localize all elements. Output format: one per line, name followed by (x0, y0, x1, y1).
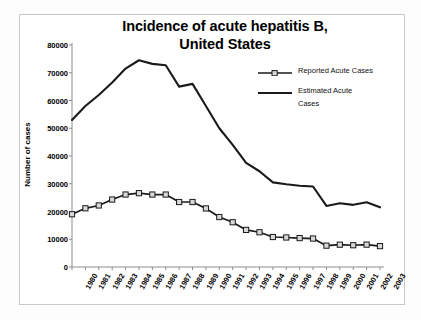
series-marker (203, 206, 208, 211)
chart-legend: Reported Acute Cases Estimated Acute Cas… (258, 68, 398, 88)
series-marker (257, 230, 262, 235)
legend-label-reported: Reported Acute Cases (298, 64, 398, 77)
series-marker (69, 212, 74, 217)
series-marker (217, 214, 222, 219)
series-marker (284, 235, 289, 240)
legend-symbol-plain-line (258, 90, 292, 96)
series-marker (297, 235, 302, 240)
series-marker (163, 192, 168, 197)
series-marker (310, 236, 315, 241)
series-marker (110, 197, 115, 202)
series-marker (364, 242, 369, 247)
series-marker (230, 220, 235, 225)
series-marker (337, 242, 342, 247)
chart-figure: Incidence of acute hepatitis B, United S… (0, 0, 421, 320)
series-marker (136, 191, 141, 196)
legend-label-estimated-line-1: Estimated Acute (298, 84, 398, 97)
chart-plot-svg (0, 0, 421, 320)
legend-symbol-square-line (258, 70, 292, 76)
series-marker (123, 192, 128, 197)
series-marker (243, 227, 248, 232)
series-marker (177, 199, 182, 204)
legend-label-estimated: Estimated Acute Cases (298, 84, 398, 110)
series-line-0 (72, 193, 380, 246)
series-marker (83, 206, 88, 211)
series-marker (351, 243, 356, 248)
series-marker (96, 203, 101, 208)
series-marker (377, 244, 382, 249)
series-marker (270, 234, 275, 239)
series-marker (190, 199, 195, 204)
series-marker (150, 192, 155, 197)
series-marker (324, 243, 329, 248)
legend-label-estimated-line-2: Cases (298, 97, 398, 110)
